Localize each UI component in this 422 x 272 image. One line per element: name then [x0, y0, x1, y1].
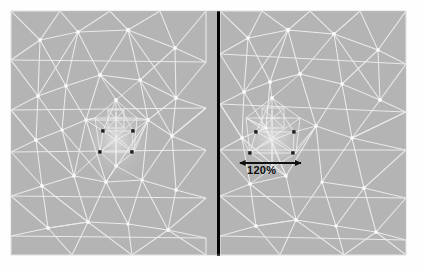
panel-divider [217, 11, 220, 256]
mesh-comparison-figure: 120% [0, 0, 422, 272]
right-panel [220, 11, 406, 255]
left-panel [11, 11, 217, 255]
mesh-diagram-canvas [0, 0, 422, 272]
dimension-label: 120% [247, 164, 276, 176]
